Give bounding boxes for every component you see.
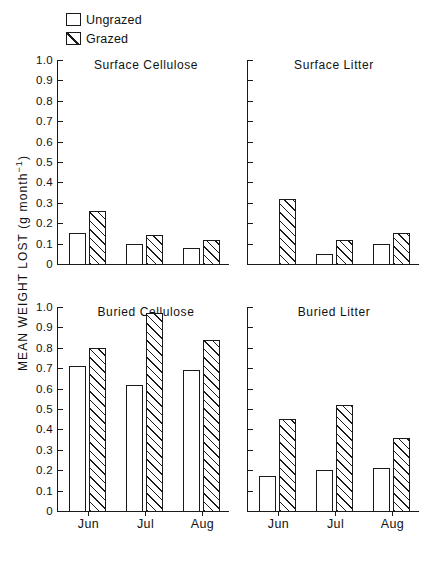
bar-group — [250, 60, 307, 264]
y-tick-label: 0.1 — [36, 485, 53, 497]
x-axis-line — [247, 264, 419, 265]
bar-grazed — [279, 419, 296, 511]
y-tick-label: 0.9 — [36, 321, 53, 333]
bar-group — [60, 60, 117, 264]
legend-label-grazed: Grazed — [86, 32, 128, 46]
bar-ungrazed — [183, 370, 200, 511]
bar-group — [174, 307, 231, 511]
panel-buried-cellulose: Buried Cellulose 1.0 0.9 0.8 0.7 0.6 0.5… — [57, 307, 229, 540]
bars-buried-litter — [248, 307, 419, 511]
bar-ungrazed — [259, 476, 276, 511]
bar-group — [364, 307, 421, 511]
bar-grazed — [393, 438, 410, 511]
x-tick-mark — [145, 512, 146, 516]
bars-surface-cellulose — [58, 60, 229, 264]
bar-group — [364, 60, 421, 264]
bars-buried-cellulose — [58, 307, 229, 511]
bars-surface-litter — [248, 60, 419, 264]
x-tick-label-aug: Aug — [364, 517, 421, 531]
panel-surface-litter: Surface Litter — [247, 60, 419, 293]
bar-group — [250, 307, 307, 511]
bar-group — [307, 60, 364, 264]
y-tick-label: 0.8 — [36, 342, 53, 354]
bar-group — [117, 307, 174, 511]
x-tick-mark — [202, 512, 203, 516]
x-tick-label-jul: Jul — [307, 517, 364, 531]
bar-grazed — [393, 233, 410, 264]
bar-ungrazed — [126, 385, 143, 511]
bar-ungrazed — [69, 233, 86, 264]
y-tick-label: 0.4 — [36, 423, 53, 435]
x-tick-label-jul: Jul — [117, 517, 174, 531]
figure: Ungrazed Grazed MEAN WEIGHT LOST (g mont… — [0, 0, 446, 565]
bar-grazed — [89, 348, 106, 511]
y-tick-label: 0.6 — [36, 136, 53, 148]
panel-surface-cellulose: Surface Cellulose 1.0 0.9 0.8 0.7 0.6 0.… — [57, 60, 229, 293]
bar-grazed — [146, 313, 163, 511]
x-tick-mark — [392, 512, 393, 516]
empty-square-icon — [66, 13, 81, 26]
bar-ungrazed — [69, 366, 86, 511]
bar-ungrazed — [126, 244, 143, 264]
legend-label-ungrazed: Ungrazed — [86, 13, 142, 27]
bar-ungrazed — [373, 468, 390, 511]
legend-item-ungrazed: Ungrazed — [66, 10, 216, 29]
x-axis-line — [247, 511, 419, 512]
bar-grazed — [203, 340, 220, 511]
bar-ungrazed — [373, 244, 390, 264]
x-tick-label-jun: Jun — [250, 517, 307, 531]
y-tick-label: 0.3 — [36, 444, 53, 456]
bar-ungrazed — [316, 254, 333, 264]
legend: Ungrazed Grazed — [66, 10, 216, 48]
bar-grazed — [146, 235, 163, 264]
bar-grazed — [203, 240, 220, 264]
x-tick-label-jun: Jun — [60, 517, 117, 531]
y-tick-label: 0.2 — [36, 217, 53, 229]
y-tick-label: 1.0 — [36, 54, 53, 66]
bar-grazed — [279, 199, 296, 264]
y-tick-label: 0.5 — [36, 403, 53, 415]
hatched-square-icon — [66, 32, 81, 45]
y-tick-label: 0.1 — [36, 238, 53, 250]
bar-group — [60, 307, 117, 511]
y-tick-label: 0.5 — [36, 156, 53, 168]
y-tick-label: 0 — [46, 505, 53, 517]
bar-ungrazed — [316, 470, 333, 511]
y-tick-label: 0.7 — [36, 362, 53, 374]
panel-buried-litter: Buried Litter — [247, 307, 419, 540]
x-tick-mark — [335, 512, 336, 516]
bar-group — [174, 60, 231, 264]
y-tick-label: 1.0 — [36, 301, 53, 313]
legend-item-grazed: Grazed — [66, 29, 216, 48]
y-tick-label: 0.8 — [36, 95, 53, 107]
bar-group — [307, 307, 364, 511]
panel-row-buried: Buried Cellulose 1.0 0.9 0.8 0.7 0.6 0.5… — [0, 307, 446, 540]
bar-group — [117, 60, 174, 264]
bar-ungrazed — [183, 248, 200, 264]
y-tick-label: 0.6 — [36, 383, 53, 395]
x-axis-line — [57, 511, 229, 512]
bar-grazed — [89, 211, 106, 264]
bar-grazed — [336, 405, 353, 511]
y-tick-label: 0.4 — [36, 176, 53, 188]
x-axis-line — [57, 264, 229, 265]
panel-row-surface: Surface Cellulose 1.0 0.9 0.8 0.7 0.6 0.… — [0, 60, 446, 293]
y-tick-label: 0.3 — [36, 197, 53, 209]
bar-grazed — [336, 240, 353, 264]
x-tick-mark — [278, 512, 279, 516]
x-tick-mark — [88, 512, 89, 516]
y-tick-label: 0.2 — [36, 464, 53, 476]
x-tick-label-aug: Aug — [174, 517, 231, 531]
y-tick-label: 0.9 — [36, 74, 53, 86]
y-tick-label: 0.7 — [36, 115, 53, 127]
y-tick-label: 0 — [46, 258, 53, 270]
